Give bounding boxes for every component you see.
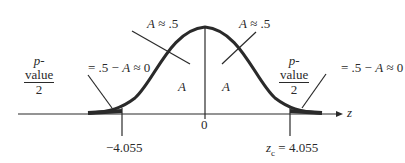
critical-value: = 4.055 bbox=[275, 140, 318, 155]
inner-right-area-label: A bbox=[222, 80, 230, 94]
axis-variable-label: z bbox=[347, 106, 352, 120]
right-critical-label: zc = 4.055 bbox=[266, 141, 318, 160]
fraction-denominator: 2 bbox=[279, 83, 309, 97]
left-tail-pointer bbox=[88, 75, 112, 108]
value-text: -value bbox=[280, 53, 308, 82]
rhs-prefix: = .5 − bbox=[341, 60, 375, 75]
rhs-suffix: ≈ 0 bbox=[130, 60, 150, 75]
diagram-canvas bbox=[0, 0, 405, 163]
axis-arrow-icon bbox=[336, 111, 343, 117]
rhs-suffix: ≈ 0 bbox=[383, 60, 403, 75]
right-tail-region bbox=[290, 111, 322, 113]
rhs-var: A bbox=[375, 60, 383, 75]
fraction-numerator: p-value bbox=[24, 54, 54, 83]
top-left-area-label: A ≈ .5 bbox=[147, 17, 178, 31]
rhs-prefix: = .5 − bbox=[88, 60, 122, 75]
left-critical-label: −4.055 bbox=[106, 141, 143, 155]
left-tail-region bbox=[88, 111, 122, 113]
inner-left-area-label: A bbox=[178, 80, 186, 94]
center-zero-label: 0 bbox=[201, 118, 208, 132]
area-value: ≈ .5 bbox=[247, 16, 270, 31]
right-pvalue-fraction: p-value 2 bbox=[279, 54, 309, 97]
fraction-numerator: p-value bbox=[279, 54, 309, 83]
rhs-var: A bbox=[122, 60, 130, 75]
area-var: A bbox=[147, 16, 155, 31]
top-right-area-label: A ≈ .5 bbox=[239, 17, 270, 31]
left-tail-rhs: = .5 − A ≈ 0 bbox=[88, 61, 150, 75]
left-pvalue-fraction: p-value 2 bbox=[24, 54, 54, 97]
area-value: ≈ .5 bbox=[155, 16, 178, 31]
right-tail-rhs: = .5 − A ≈ 0 bbox=[341, 61, 403, 75]
value-text: -value bbox=[25, 53, 53, 82]
fraction-denominator: 2 bbox=[24, 83, 54, 97]
area-var: A bbox=[239, 16, 247, 31]
